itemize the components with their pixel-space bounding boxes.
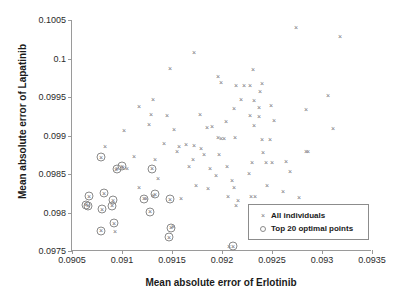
individual-point-marker xyxy=(131,152,138,159)
optimal-point-marker xyxy=(151,190,160,199)
individual-point-marker xyxy=(164,111,171,118)
x-tick-mark xyxy=(72,250,73,254)
y-tick-label: 0.1 xyxy=(53,54,66,64)
individual-point-marker xyxy=(264,181,271,188)
individual-point-marker xyxy=(256,113,263,120)
x-tick-label: 0.0925 xyxy=(258,255,286,265)
individual-point-marker xyxy=(218,79,225,86)
legend-label: Top 20 optimal points xyxy=(271,224,353,233)
y-tick-label: 0.0995 xyxy=(38,92,66,102)
individual-point-marker xyxy=(148,110,155,117)
individual-point-marker xyxy=(269,158,276,165)
individual-point-marker xyxy=(152,155,159,162)
individual-point-marker xyxy=(226,242,233,249)
individual-point-marker xyxy=(161,140,168,147)
individual-point-marker xyxy=(183,140,190,147)
optimal-point-marker xyxy=(108,201,117,210)
x-tick-label: 0.091 xyxy=(111,255,134,265)
optimal-point-marker xyxy=(110,219,119,228)
individual-point-marker xyxy=(287,167,294,174)
optimal-point-marker xyxy=(113,164,122,173)
x-tick-label: 0.092 xyxy=(211,255,234,265)
legend-item-all-individuals: × All individuals xyxy=(249,209,368,222)
individual-point-marker xyxy=(207,164,214,171)
optimal-point-marker xyxy=(148,164,157,173)
individual-point-marker xyxy=(250,65,257,72)
individual-point-marker xyxy=(102,143,109,150)
individual-point-marker xyxy=(283,157,290,164)
individual-point-marker xyxy=(198,144,205,151)
individual-point-marker xyxy=(174,147,181,154)
individual-point-marker xyxy=(251,97,258,104)
individual-point-marker xyxy=(251,121,258,128)
individual-point-marker xyxy=(259,135,266,142)
individual-point-marker xyxy=(201,150,208,157)
individual-point-marker xyxy=(136,184,143,191)
individual-point-marker xyxy=(197,110,204,117)
optimal-point-marker xyxy=(82,200,91,209)
chart-legend: × All individuals Top 20 optimal points xyxy=(248,204,369,240)
x-axis-label: Mean absolute error of Erlotinib xyxy=(71,277,371,288)
individual-point-marker xyxy=(191,49,198,56)
individual-point-marker xyxy=(193,181,200,188)
y-tick-label: 0.098 xyxy=(43,208,66,218)
individual-point-marker xyxy=(259,80,266,87)
optimal-point-marker xyxy=(84,201,93,210)
individual-point-marker xyxy=(337,33,344,40)
individual-point-marker xyxy=(247,112,254,119)
legend-item-top-20-optimal-points: Top 20 optimal points xyxy=(249,222,368,235)
individual-point-marker xyxy=(233,201,240,208)
individual-point-marker xyxy=(330,124,337,131)
x-tick-label: 0.093 xyxy=(311,255,334,265)
x-tick-mark xyxy=(272,250,273,254)
optimal-point-marker xyxy=(85,192,94,201)
individual-point-marker xyxy=(167,64,174,71)
individual-point-marker xyxy=(190,155,197,162)
individual-point-marker xyxy=(186,162,193,169)
optimal-point-marker xyxy=(97,226,106,235)
x-tick-mark xyxy=(222,250,223,254)
y-tick-label: 0.0985 xyxy=(38,169,66,179)
individual-point-marker xyxy=(293,23,300,30)
optimal-point-marker xyxy=(100,189,109,198)
individual-point-marker xyxy=(176,142,183,149)
x-tick-mark xyxy=(172,250,173,254)
individual-point-marker xyxy=(232,134,239,141)
individual-point-marker xyxy=(113,165,120,172)
individual-point-marker xyxy=(205,184,212,191)
individual-point-marker xyxy=(241,82,248,89)
x-tick-label: 0.0915 xyxy=(158,255,186,265)
optimal-point-marker xyxy=(118,162,127,171)
individual-point-marker xyxy=(247,82,254,89)
individual-point-marker xyxy=(204,124,211,131)
individual-point-marker xyxy=(170,223,177,230)
individual-point-marker xyxy=(223,117,230,124)
optimal-point-marker xyxy=(146,207,155,216)
x-tick-label: 0.0935 xyxy=(358,255,386,265)
optimal-point-marker xyxy=(109,196,118,205)
individual-point-marker xyxy=(246,170,253,177)
individual-point-marker xyxy=(224,163,231,170)
y-tick-label: 0.1005 xyxy=(38,15,66,25)
individual-point-marker xyxy=(191,141,198,148)
individual-point-marker xyxy=(296,194,303,201)
individual-point-marker xyxy=(146,120,153,127)
individual-point-marker xyxy=(155,174,162,181)
individual-point-marker xyxy=(218,134,225,141)
individual-point-marker xyxy=(225,193,232,200)
y-axis-label: Mean absolute error of Lapatinib xyxy=(17,6,28,237)
y-tick-label: 0.099 xyxy=(43,131,66,141)
individual-point-marker xyxy=(257,87,264,94)
individual-point-marker xyxy=(178,194,185,201)
individual-point-marker xyxy=(124,164,131,171)
x-tick-mark xyxy=(122,250,123,254)
individual-point-marker xyxy=(209,123,216,130)
x-tick-mark xyxy=(322,250,323,254)
scatter-plot-figure: 0.09750.0980.09850.0990.09950.10.1005 0.… xyxy=(0,0,394,303)
individual-point-marker xyxy=(150,191,157,198)
individual-point-marker xyxy=(171,126,178,133)
individual-point-marker xyxy=(231,184,238,191)
individual-point-marker xyxy=(305,147,312,154)
individual-point-marker xyxy=(268,102,275,109)
individual-point-marker xyxy=(221,134,228,141)
